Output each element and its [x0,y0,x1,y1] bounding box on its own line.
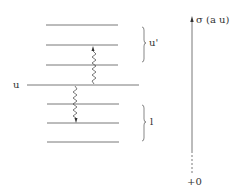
energy-level-diagram [0,0,237,195]
upper-levels [46,25,118,65]
lower-brace-icon [142,105,146,141]
sigma-axis [190,16,193,175]
axis-origin-label: +0 [187,177,202,187]
level-label-u: u [13,80,19,90]
axis-label-sigma: σ (a u) [196,15,229,25]
level-label-u-prime: u' [149,38,158,48]
level-label-l: l [150,117,153,127]
lower-levels [47,104,119,142]
axis-arrow-icon [190,16,193,22]
upper-brace-icon [142,27,146,62]
wavy-arrow-down-icon [73,86,78,123]
